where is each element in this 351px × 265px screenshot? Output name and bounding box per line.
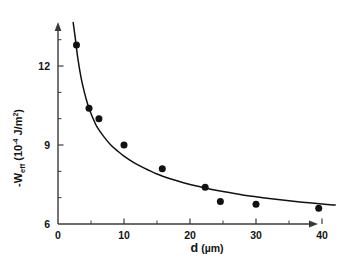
x-tick-label: 0 — [55, 229, 61, 241]
svg-text:-Weff (10-4 J/m2): -Weff (10-4 J/m2) — [12, 109, 27, 187]
svg-text:d (µm): d (µm) — [190, 241, 223, 255]
x-axis-variable: d — [190, 241, 198, 255]
x-tick-label: 20 — [184, 229, 196, 241]
data-point — [95, 115, 102, 122]
axes-group — [55, 22, 318, 227]
y-tick-label: 9 — [44, 139, 50, 151]
y-axis-unit-close: ) — [12, 109, 24, 113]
y-tick-labels: 6912 — [38, 60, 50, 230]
x-tick-labels: 010203040 — [55, 229, 328, 241]
data-point — [159, 165, 166, 172]
data-point — [217, 198, 224, 205]
data-point — [121, 142, 128, 149]
x-axis-arrow-icon — [309, 221, 318, 228]
x-tick-label: 10 — [118, 229, 130, 241]
x-tick-marks — [91, 219, 322, 225]
y-axis-arrow-icon — [55, 22, 62, 31]
y-axis-unit-open: (10 — [12, 145, 24, 164]
x-tick-label: 40 — [316, 229, 328, 241]
x-tick-label: 30 — [250, 229, 262, 241]
y-axis-title: -Weff (10-4 J/m2) — [12, 109, 27, 187]
data-point — [202, 184, 209, 191]
y-axis-variable: -W — [12, 172, 24, 187]
data-point — [253, 201, 260, 208]
y-tick-label: 6 — [44, 218, 50, 230]
y-tick-marks — [58, 40, 64, 198]
fitted-decay-curve — [73, 23, 335, 205]
y-tick-label: 12 — [38, 60, 50, 72]
data-point — [86, 105, 93, 112]
x-axis-title: d (µm) — [190, 241, 223, 255]
x-axis-unit: (µm) — [201, 242, 223, 254]
y-axis-unit-rest: J/m — [12, 116, 24, 138]
scatter-plot: 010203040 6912 d (µm) -Weff (10-4 J/m2) — [0, 0, 351, 265]
data-point — [73, 41, 80, 48]
data-point — [315, 205, 322, 212]
chart-figure: 010203040 6912 d (µm) -Weff (10-4 J/m2) — [0, 0, 351, 265]
